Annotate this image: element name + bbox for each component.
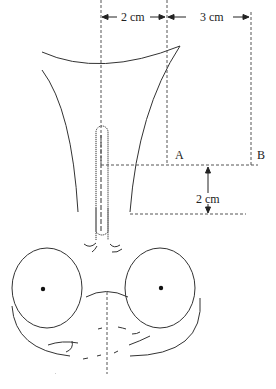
right-outline — [130, 46, 180, 212]
arrowhead-top-left-b — [159, 15, 165, 20]
left-lower-mark — [48, 341, 78, 352]
arrowhead-vertical-down — [206, 207, 211, 213]
faint-mark — [55, 373, 56, 374]
dimension-label-3cm-top: 3 cm — [200, 11, 224, 23]
dimension-label-2cm-top: 2 cm — [121, 11, 145, 23]
lower-right-outline — [130, 298, 200, 356]
inner-capsule — [96, 126, 108, 240]
lower-left-outline — [12, 306, 70, 356]
arrowhead-top-right-b — [243, 15, 249, 20]
left-lower-strokes — [83, 328, 102, 359]
point-label-b: B — [257, 149, 265, 161]
dimension-label-2cm-vertical: 2 cm — [196, 193, 220, 205]
neck-marks — [84, 243, 122, 252]
point-label-a: A — [175, 149, 184, 161]
inner-capsule-bottom — [96, 208, 108, 235]
left-pupil — [41, 287, 45, 291]
right-lower-strokes — [114, 327, 150, 353]
arrowhead-top-right-a — [168, 15, 174, 20]
top-curve — [42, 46, 180, 64]
arrowhead-top-left-a — [102, 15, 108, 20]
left-outline — [42, 70, 78, 212]
measurement-diagram — [0, 0, 276, 389]
right-pupil — [159, 286, 163, 290]
arrowhead-vertical-up — [206, 167, 211, 173]
left-eye — [12, 248, 82, 328]
